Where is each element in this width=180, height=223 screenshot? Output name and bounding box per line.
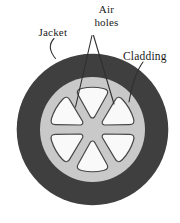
air-holes-label-line2: holes: [94, 16, 118, 28]
fiber-cross-section-diagram: Air holes Jacket Cladding: [0, 0, 180, 223]
cladding-label: Cladding: [123, 50, 167, 63]
jacket-leader-line: [50, 39, 55, 59]
jacket-label: Jacket: [39, 26, 68, 38]
fiber-cross-section-figure: Air holes Jacket Cladding: [0, 0, 180, 223]
air-holes-label-line1: Air: [99, 3, 114, 15]
